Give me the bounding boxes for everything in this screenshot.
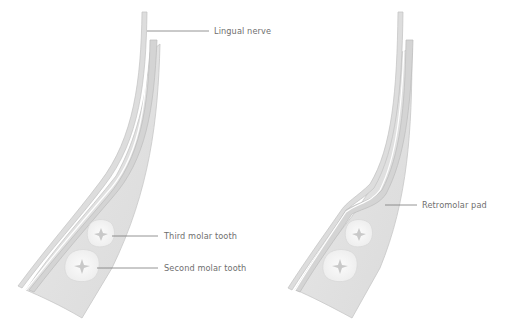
- label-retromolar-pad: Retromolar pad: [422, 200, 487, 210]
- left-third-molar-tooth: [87, 220, 114, 247]
- right-jaw-illustration: [288, 12, 417, 318]
- label-second-molar-tooth: Second molar tooth: [164, 263, 246, 273]
- diagram-illustration: [0, 0, 520, 335]
- molar-nerve-diagram: Lingual nerve Third molar tooth Second m…: [0, 0, 520, 335]
- left-second-molar-tooth: [65, 250, 99, 282]
- right-second-molar-tooth: [323, 250, 357, 282]
- label-lingual-nerve: Lingual nerve: [214, 26, 271, 36]
- right-third-molar-tooth: [345, 220, 372, 247]
- label-third-molar-tooth: Third molar tooth: [164, 231, 237, 241]
